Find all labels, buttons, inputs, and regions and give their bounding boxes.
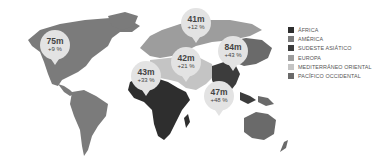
callout-america: 75m +9 % [40,30,70,60]
callout-change: +21 % [177,63,194,70]
callout-value: 43m [137,68,154,77]
callout-africa: 43m +33 % [131,61,161,91]
callout-change: +12 % [187,24,204,31]
region-central-america [58,84,74,96]
legend-item-eastern-mediterranean: MEDITERRÁNEO ORIENTAL [288,62,372,71]
legend-label: SUDESTE ASIÁTICO [298,45,351,51]
callout-value: 41m [187,15,204,24]
callout-southeast-asia: 47m +48 % [204,81,234,111]
region-south-america [70,90,108,156]
legend-item-southeast-asia: SUDESTE ASIÁTICO [288,44,372,53]
callout-western-pacific: 84m +43 % [218,36,248,66]
region-madagascar [184,114,190,128]
callout-eastern-mediterranean: 42m +21 % [171,47,201,77]
legend-swatch [288,36,294,42]
legend-swatch [288,55,294,61]
legend-label: PACÍFICO OCCIDENTAL [298,73,361,79]
map-legend: ÁFRICA AMÉRICA SUDESTE ASIÁTICO EUROPA M… [288,25,372,81]
callout-europe: 41m +12 % [181,8,211,38]
legend-item-western-pacific: PACÍFICO OCCIDENTAL [288,71,372,80]
legend-label: MEDITERRÁNEO ORIENTAL [298,64,372,70]
legend-item-europe: EUROPA [288,53,372,62]
callout-value: 42m [177,54,194,63]
callout-change: +33 % [137,77,154,84]
callout-value: 84m [224,43,241,52]
callout-change: +9 % [48,46,62,53]
legend-swatch [288,64,294,70]
legend-label: EUROPA [298,55,321,61]
legend-label: ÁFRICA [298,27,318,33]
callout-change: +48 % [210,97,227,104]
legend-item-africa: ÁFRICA [288,25,372,34]
legend-swatch [288,73,294,79]
region-pacific-islands [258,96,274,106]
legend-swatch [288,27,294,33]
callout-change: +43 % [224,52,241,59]
legend-swatch [288,45,294,51]
region-new-zealand [280,140,288,152]
region-australia [244,112,276,140]
legend-item-america: AMÉRICA [288,34,372,43]
callout-value: 47m [210,88,227,97]
region-southeast-islands [240,92,256,104]
legend-label: AMÉRICA [298,36,323,42]
callout-value: 75m [46,37,63,46]
